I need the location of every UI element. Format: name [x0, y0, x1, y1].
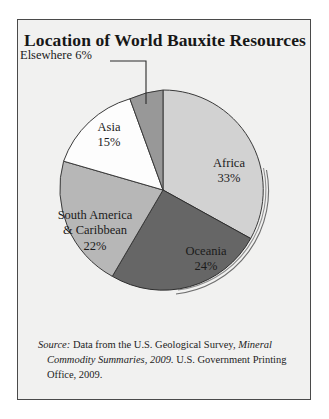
pie-label-south-america-line1: South America	[58, 208, 133, 222]
pie-label-africa-value: 33%	[193, 171, 265, 186]
pie-label-asia-value: 15%	[78, 135, 140, 150]
pie-label-south-america-caribbean: South America & Caribbean 22%	[35, 208, 155, 254]
pie-label-africa: Africa 33%	[193, 156, 265, 187]
pie-label-south-america-line2: & Caribbean	[35, 223, 155, 238]
figure-panel: Location of World Bauxite Resources Else…	[17, 19, 311, 400]
source-lead: Source:	[38, 339, 70, 350]
pie-label-asia-name: Asia	[98, 120, 121, 134]
pie-label-asia: Asia 15%	[78, 120, 140, 151]
pie-label-south-america-value: 22%	[35, 239, 155, 254]
pie-label-elsewhere: Elsewhere 6%	[20, 48, 92, 63]
pie-label-africa-name: Africa	[213, 156, 245, 170]
source-caption: Source: Data from the U.S. Geological Su…	[38, 338, 303, 383]
pie-label-oceania-value: 24%	[170, 259, 242, 274]
source-body-first: Data from the U.S. Geological Survey,	[70, 339, 238, 350]
pie-label-oceania: Oceania 24%	[170, 244, 242, 275]
pie-chart-plot-area: Elsewhere 6% Africa 33% Oceania 24% Sout…	[18, 48, 311, 333]
pie-label-oceania-name: Oceania	[186, 244, 227, 258]
pie-chart-svg	[18, 48, 311, 333]
